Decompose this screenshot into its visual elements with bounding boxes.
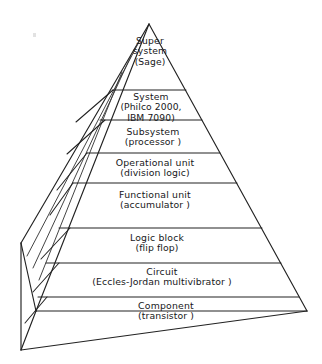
scan-speck	[33, 33, 36, 37]
pyramid-svg	[0, 0, 322, 364]
pyramid-diagram: Super system (Sage) System (Philco 2000,…	[0, 0, 322, 364]
